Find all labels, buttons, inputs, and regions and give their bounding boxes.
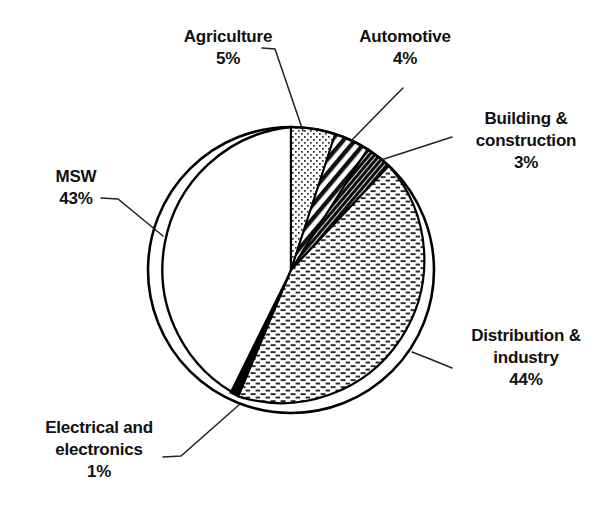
pie-chart: Agriculture 5% Automotive 4% Building & …: [0, 0, 602, 518]
leader-line-distribution: [412, 352, 452, 368]
slice-label-automotive: Automotive 4%: [330, 26, 480, 70]
leader-line-building: [381, 137, 452, 160]
slice-label-distribution-industry: Distribution & industry 44%: [452, 325, 600, 390]
slice-label-msw: MSW 43%: [6, 166, 146, 210]
leader-line-automotive: [351, 88, 403, 141]
slice-label-building-construction: Building & construction 3%: [452, 108, 600, 173]
pie-slices: [148, 127, 434, 413]
slice-label-agriculture: Agriculture 5%: [148, 26, 308, 70]
slice-label-electrical-electronics: Electrical and electronics 1%: [4, 417, 194, 482]
